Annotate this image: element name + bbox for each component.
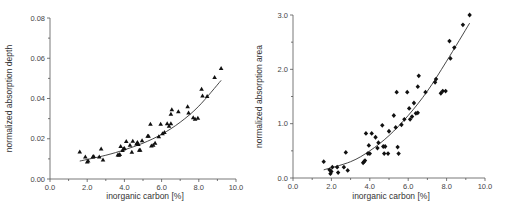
data-point: [364, 131, 368, 136]
data-point: [395, 145, 399, 150]
data-point: [467, 13, 471, 18]
y-tick-label: 3.0: [278, 11, 288, 20]
y-tick-label: 0.0: [278, 174, 288, 183]
data-point: [386, 151, 390, 156]
data-point: [376, 140, 380, 145]
data-point: [212, 75, 217, 79]
data-point: [387, 129, 391, 134]
data-point: [77, 149, 82, 153]
data-point: [416, 84, 420, 89]
data-point: [128, 143, 133, 147]
data-point: [380, 123, 384, 128]
x-axis-label: inorganic carbon [%]: [106, 191, 184, 201]
data-point: [373, 135, 377, 140]
y-tick-label: 0.04: [30, 94, 45, 103]
x-tick-label: 6.0: [403, 182, 413, 191]
y-tick-label: 0.02: [30, 134, 45, 143]
x-tick-label: 2.0: [82, 183, 92, 192]
data-point: [99, 146, 104, 150]
data-point: [176, 109, 181, 113]
data-point: [399, 122, 403, 127]
x-tick-label: 10.0: [478, 182, 493, 191]
data-point: [170, 107, 175, 111]
y-tick-label: 0.08: [30, 14, 45, 23]
data-point: [118, 144, 123, 148]
data-point: [392, 113, 396, 118]
data-point: [196, 116, 201, 120]
data-point: [396, 151, 400, 156]
data-point: [330, 165, 334, 170]
data-point: [199, 87, 204, 91]
data-point: [130, 139, 135, 143]
data-point: [219, 66, 224, 70]
data-point: [342, 165, 346, 170]
data-point: [124, 139, 129, 143]
data-point: [153, 141, 158, 145]
x-tick-label: 10.0: [229, 183, 244, 192]
data-point: [346, 168, 350, 173]
data-points: [77, 66, 223, 164]
data-point: [447, 39, 451, 44]
x-tick-label: 2.0: [326, 182, 336, 191]
data-point: [367, 143, 371, 148]
data-point: [186, 111, 191, 115]
data-point: [405, 90, 409, 95]
data-point: [130, 150, 135, 154]
data-point: [344, 150, 348, 155]
data-point: [200, 93, 205, 97]
data-point: [158, 122, 163, 126]
data-point: [140, 138, 145, 142]
x-tick-label: 0.0: [45, 183, 55, 192]
data-point: [407, 106, 411, 111]
x-tick-label: 4.0: [365, 182, 375, 191]
data-point: [101, 157, 106, 161]
data-point: [461, 22, 465, 27]
data-point: [394, 90, 398, 95]
chart-absorption-area: 0.02.04.06.08.010.0 0.01.02.03.0 inorgan…: [254, 11, 492, 202]
y-ticks: 0.000.020.040.060.08: [30, 14, 50, 184]
y-tick-label: 0.00: [30, 175, 45, 184]
data-point: [394, 125, 398, 130]
y-axis-label: normalized absorption area: [254, 45, 264, 148]
x-ticks: 0.02.04.06.08.010.0: [288, 178, 493, 191]
data-point: [443, 89, 447, 94]
y-tick-label: 0.06: [30, 54, 45, 63]
x-axis-label: inorganic carbon [%]: [352, 191, 430, 201]
figure: 0.02.04.06.08.010.0 0.000.020.040.060.08…: [0, 0, 508, 216]
data-point: [370, 131, 374, 136]
data-point: [148, 122, 153, 126]
data-points: [322, 13, 472, 176]
data-point: [83, 154, 88, 158]
data-point: [336, 170, 340, 175]
data-point: [412, 101, 416, 106]
data-point: [169, 112, 174, 116]
data-point: [382, 151, 386, 156]
data-point: [322, 159, 326, 164]
chart-absorption-depth: 0.02.04.06.08.010.0 0.000.020.040.060.08…: [4, 14, 243, 202]
y-tick-label: 1.0: [278, 119, 288, 128]
data-point: [423, 90, 427, 95]
data-point: [169, 121, 174, 125]
y-ticks: 0.01.02.03.0: [278, 11, 293, 183]
x-tick-label: 8.0: [194, 183, 204, 192]
y-tick-label: 2.0: [278, 65, 288, 74]
data-point: [417, 73, 421, 78]
y-axis-label: normalized absorption depth: [4, 45, 14, 153]
x-tick-label: 8.0: [441, 182, 451, 191]
data-point: [185, 104, 190, 108]
x-tick-label: 0.0: [288, 182, 298, 191]
